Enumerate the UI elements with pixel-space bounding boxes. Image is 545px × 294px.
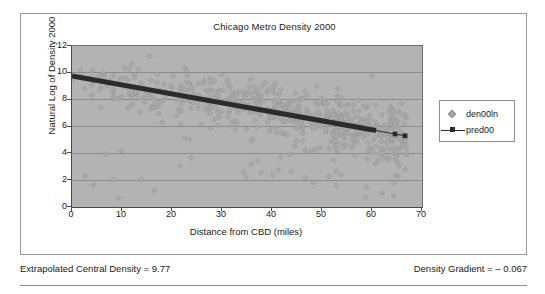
scatter-point: [233, 127, 238, 132]
legend-item-pred00: pred00: [440, 123, 516, 137]
y-tick-label: 8: [45, 94, 67, 103]
scatter-point: [110, 177, 115, 182]
plot-area: [71, 45, 423, 208]
scatter-point: [152, 188, 157, 193]
scatter-point: [254, 124, 259, 129]
scatter-point: [369, 73, 374, 78]
y-axis-ticks: 024681012: [41, 45, 67, 206]
scatter-point: [152, 96, 157, 101]
scatter-point: [276, 167, 281, 172]
chart-title: Chicago Metro Density 2000: [21, 21, 528, 32]
scatter-point: [278, 154, 283, 159]
scatter-point: [229, 123, 234, 128]
scatter-point: [274, 130, 279, 135]
scatter-point: [177, 163, 182, 168]
scatter-point: [351, 102, 356, 107]
scatter-point: [328, 139, 333, 144]
scatter-point: [78, 67, 83, 72]
scatter-point: [379, 190, 384, 195]
scatter-point: [252, 118, 257, 123]
scatter-point: [404, 145, 409, 150]
scatter-point: [278, 87, 283, 92]
scatter-point: [363, 195, 368, 200]
scatter-point: [130, 62, 135, 67]
scatter-point: [174, 98, 179, 103]
scatter-point: [208, 76, 213, 81]
scatter-point: [379, 139, 384, 144]
y-tick-label: 10: [45, 67, 67, 76]
line-square-marker-icon: [440, 124, 466, 136]
x-tick-mark: [121, 207, 122, 211]
scatter-point: [174, 113, 179, 118]
scatter-point: [364, 157, 369, 162]
trend-line: [72, 76, 407, 138]
scatter-point: [248, 161, 253, 166]
scatter-point: [248, 77, 253, 82]
scatter-point: [119, 148, 124, 153]
scatter-point: [403, 167, 408, 172]
scatter-point: [244, 126, 249, 131]
scatter-point: [287, 152, 292, 157]
scatter-point: [300, 131, 305, 136]
scatter-point: [311, 180, 316, 185]
scatter-point: [125, 105, 130, 110]
scatter-point: [137, 110, 142, 115]
x-tick-mark: [421, 207, 422, 211]
scatter-point: [399, 101, 404, 106]
scatter-point: [111, 73, 116, 78]
scatter-point: [188, 155, 193, 160]
scatter-point: [160, 120, 165, 125]
trend-marker: [393, 132, 398, 137]
scatter-point: [391, 180, 396, 185]
scatter-point: [91, 182, 96, 187]
scatter-point: [302, 148, 307, 153]
scatter-point: [188, 106, 193, 111]
legend-item-den00ln: den00ln: [440, 107, 516, 121]
scatter-point: [270, 172, 275, 177]
scatter-point: [178, 102, 183, 107]
scatter-point: [154, 80, 159, 85]
legend-label-pred00: pred00: [466, 125, 494, 135]
scatter-point: [116, 196, 121, 201]
scatter-point: [170, 73, 175, 78]
scatter-point: [243, 175, 248, 180]
scatter-point: [294, 138, 299, 143]
x-axis-ticks: 010203040506070: [71, 209, 423, 223]
scatter-point: [365, 140, 370, 145]
scatter-point: [102, 151, 107, 156]
scatter-point: [147, 54, 152, 59]
density-gradient-text: Density Gradient = – 0.067: [414, 263, 527, 274]
scatter-point: [300, 138, 305, 143]
y-tick-label: 12: [45, 41, 67, 50]
scatter-point: [98, 105, 103, 110]
scatter-point: [241, 170, 246, 175]
x-tick-mark: [221, 207, 222, 211]
y-tick-label: 6: [45, 121, 67, 130]
scatter-point: [130, 102, 135, 107]
x-axis-label: Distance from CBD (miles): [71, 226, 421, 237]
footer-divider: [20, 285, 527, 286]
scatter-point: [373, 144, 378, 149]
scatter-point: [148, 78, 153, 83]
y-tick-label: 2: [45, 175, 67, 184]
x-tick-mark: [371, 207, 372, 211]
scatter-point: [364, 185, 369, 190]
legend-label-den00ln: den00ln: [466, 109, 498, 119]
extrapolated-central-density-text: Extrapolated Central Density = 9.77: [20, 263, 170, 274]
scatter-point: [379, 112, 384, 117]
scatter-point: [262, 80, 267, 85]
scatter-point: [199, 121, 204, 126]
scatter-point: [397, 128, 402, 133]
scatter-point: [303, 175, 308, 180]
y-tick-mark: [67, 45, 71, 46]
y-tick-mark: [67, 72, 71, 73]
scatter-point: [187, 137, 192, 142]
scatter-point: [182, 136, 187, 141]
scatter-point: [138, 177, 143, 182]
scatter-point: [252, 84, 257, 89]
trend-marker: [403, 133, 408, 138]
scatter-point: [327, 146, 332, 151]
y-tick-mark: [67, 179, 71, 180]
scatter-point: [391, 194, 396, 199]
scatter-point: [356, 98, 361, 103]
